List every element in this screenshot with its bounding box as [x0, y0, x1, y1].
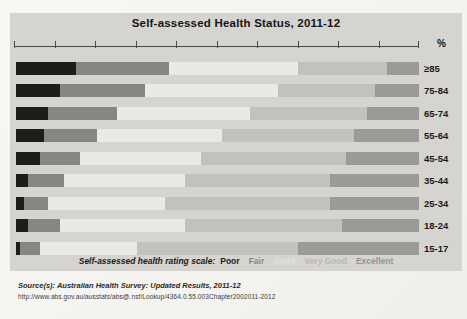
- bar-row: 15-17: [16, 242, 462, 255]
- axis-tick: [55, 41, 56, 48]
- bar-segment-very-good: [185, 219, 342, 232]
- bar-segment-good: [97, 129, 222, 142]
- x-axis-unit-label: %: [437, 38, 446, 49]
- axis-tick: [379, 41, 380, 48]
- stacked-bar: [16, 107, 419, 120]
- bar-segment-very-good: [250, 107, 367, 120]
- bar-segment-excellent: [342, 219, 419, 232]
- bar-segment-very-good: [222, 129, 355, 142]
- bar-segment-good: [48, 197, 165, 210]
- bar-row: 65-74: [16, 107, 462, 120]
- bar-segment-excellent: [330, 174, 419, 187]
- chart-panel: Self-assessed Health Status, 2011-12 % ≥…: [10, 13, 462, 271]
- axis-tick: [136, 41, 137, 48]
- age-group-label: 18-24: [424, 219, 462, 232]
- axis-tick: [14, 41, 15, 48]
- bar-segment-very-good: [165, 197, 330, 210]
- bar-segment-fair: [28, 219, 60, 232]
- legend-item-very-good: Very Good: [304, 256, 347, 266]
- age-group-label: 25-34: [424, 197, 462, 210]
- bar-segment-good: [40, 242, 137, 255]
- axis-tick: [257, 41, 258, 48]
- stacked-bar: [16, 242, 419, 255]
- bar-segment-poor: [16, 84, 60, 97]
- bar-segment-very-good: [137, 242, 298, 255]
- legend-item-good: Good: [273, 256, 295, 266]
- bar-segment-very-good: [185, 174, 330, 187]
- axis-tick: [338, 41, 339, 48]
- stacked-bar: [16, 152, 419, 165]
- bar-row: ≥85: [16, 62, 462, 75]
- age-group-label: 75-84: [424, 84, 462, 97]
- age-group-label: 45-54: [424, 152, 462, 165]
- bar-segment-excellent: [387, 62, 419, 75]
- legend-item-fair: Fair: [249, 256, 265, 266]
- stacked-bar: [16, 84, 419, 97]
- bar-segment-poor: [16, 174, 28, 187]
- bar-row: 55-64: [16, 129, 462, 142]
- axis-tick: [95, 41, 96, 48]
- bar-segment-fair: [76, 62, 169, 75]
- bar-segment-fair: [48, 107, 117, 120]
- bar-segment-very-good: [278, 84, 375, 97]
- bar-segment-fair: [20, 242, 40, 255]
- stacked-bar: [16, 219, 419, 232]
- bar-segment-good: [64, 174, 185, 187]
- bar-segment-poor: [16, 219, 28, 232]
- bar-segment-fair: [44, 129, 96, 142]
- bar-row: 75-84: [16, 84, 462, 97]
- axis-tick: [217, 41, 218, 48]
- chart-title: Self-assessed Health Status, 2011-12: [10, 17, 462, 29]
- age-group-label: 55-64: [424, 129, 462, 142]
- bar-segment-excellent: [354, 129, 418, 142]
- bar-row: 25-34: [16, 197, 462, 210]
- bar-segment-fair: [24, 197, 48, 210]
- age-group-label: 15-17: [424, 242, 462, 255]
- axis-tick: [176, 41, 177, 48]
- bar-segment-poor: [16, 107, 48, 120]
- bar-row: 35-44: [16, 174, 462, 187]
- axis-tick: [418, 41, 419, 48]
- legend-prefix: Self-assessed health rating scale:: [79, 256, 216, 266]
- bar-segment-good: [80, 152, 201, 165]
- bar-segment-excellent: [298, 242, 419, 255]
- axis-tick: [298, 41, 299, 48]
- age-group-label: 65-74: [424, 107, 462, 120]
- bar-segment-good: [145, 84, 278, 97]
- age-group-label: ≥85: [424, 62, 462, 75]
- page: { "title": "Self-assessed Health Status,…: [0, 0, 467, 319]
- x-axis: [14, 38, 419, 47]
- stacked-bar: [16, 62, 419, 75]
- footer-source-text: Source(s): Australian Health Survey: Upd…: [18, 281, 275, 290]
- stacked-bar: [16, 174, 419, 187]
- bar-segment-excellent: [367, 107, 419, 120]
- footer-source-url: http://www.abs.gov.au/ausstats/abs@.nsf/…: [18, 293, 275, 300]
- bar-segment-fair: [40, 152, 80, 165]
- footer: Source(s): Australian Health Survey: Upd…: [18, 281, 275, 300]
- legend-item-excellent: Excellent: [356, 256, 393, 266]
- bar-segment-very-good: [298, 62, 387, 75]
- bar-row: 45-54: [16, 152, 462, 165]
- bar-segment-fair: [28, 174, 64, 187]
- stacked-bar: [16, 129, 419, 142]
- bar-segment-excellent: [346, 152, 419, 165]
- bar-segment-excellent: [330, 197, 419, 210]
- bar-segment-very-good: [201, 152, 346, 165]
- age-group-label: 35-44: [424, 174, 462, 187]
- bar-segment-good: [169, 62, 298, 75]
- bar-segment-good: [117, 107, 250, 120]
- bar-segment-poor: [16, 129, 44, 142]
- stacked-bar: [16, 197, 419, 210]
- bar-row: 18-24: [16, 219, 462, 232]
- bar-segment-fair: [60, 84, 145, 97]
- bar-segment-poor: [16, 197, 24, 210]
- bar-segment-poor: [16, 62, 76, 75]
- legend-item-poor: Poor: [220, 256, 239, 266]
- legend: Self-assessed health rating scale:PoorFa…: [10, 256, 462, 266]
- bar-segment-good: [60, 219, 185, 232]
- bar-segment-excellent: [375, 84, 419, 97]
- bar-segment-poor: [16, 152, 40, 165]
